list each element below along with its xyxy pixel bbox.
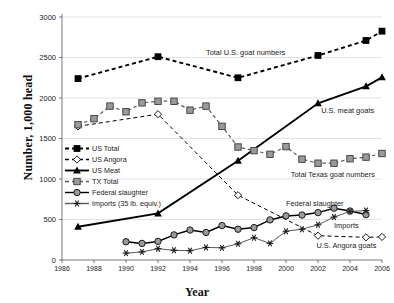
legend-key-icon <box>64 198 90 209</box>
x-tick-label: 2002 <box>301 265 335 272</box>
legend-item-label: US Angora <box>92 155 127 164</box>
x-tick-label: 1990 <box>109 265 143 272</box>
y-tick-label: 1000 <box>22 175 56 184</box>
legend-key-icon <box>64 187 90 198</box>
x-tick-label: 1996 <box>205 265 239 272</box>
legend-item-label: US Meat <box>92 166 120 175</box>
legend-item-label: TX Total <box>92 177 118 186</box>
y-tick-label: 2500 <box>22 53 56 62</box>
legend-key-icon <box>64 154 90 165</box>
legend-item-us-angora[interactable]: US Angora <box>64 154 161 165</box>
x-tick-label: 2000 <box>269 265 303 272</box>
legend-item-label: Federal slaughter <box>92 188 148 197</box>
annotation-label: Total U.S. goat numbers <box>206 48 285 57</box>
legend-item-tx-total[interactable]: TX Total <box>64 176 161 187</box>
legend-key-icon <box>64 176 90 187</box>
annotation-label: U.S. meat goats <box>321 106 374 115</box>
y-tick-label: 3000 <box>22 13 56 22</box>
x-tick-label: 2006 <box>365 265 394 272</box>
legend-item-label: Imports (35 lb. equiv.) <box>92 199 161 208</box>
legend-key-icon <box>64 143 90 154</box>
legend-item-imports-35-lb-equiv-[interactable]: Imports (35 lb. equiv.) <box>64 198 161 209</box>
x-tick-label: 1988 <box>77 265 111 272</box>
legend-item-us-meat[interactable]: US Meat <box>64 165 161 176</box>
legend-item-federal-slaughter[interactable]: Federal slaughter <box>64 187 161 198</box>
annotation-label: Imports <box>334 221 359 230</box>
y-tick-label: 2000 <box>22 94 56 103</box>
x-tick-label: 1994 <box>173 265 207 272</box>
x-tick-label: 1998 <box>237 265 271 272</box>
x-tick-label: 1992 <box>141 265 175 272</box>
y-tick-label: 0 <box>22 256 56 265</box>
plot-canvas <box>0 0 394 303</box>
x-tick-label: 2004 <box>333 265 367 272</box>
legend-item-us-total[interactable]: US Total <box>64 143 161 154</box>
legend-key-icon <box>64 165 90 176</box>
x-tick-label: 1986 <box>45 265 79 272</box>
annotation-label: Total Texas goat numbers <box>291 170 375 179</box>
y-tick-label: 500 <box>22 215 56 224</box>
legend-item-label: US Total <box>92 144 119 153</box>
y-tick-label: 1500 <box>22 134 56 143</box>
chart-legend: US TotalUS AngoraUS MeatTX TotalFederal … <box>64 143 161 209</box>
annotation-label: U.S. Angora goats <box>316 241 376 250</box>
annotation-label: Federal slaughter <box>286 199 344 208</box>
chart-figure: Number, 1,000 head Year 0500100015002000… <box>0 0 394 303</box>
